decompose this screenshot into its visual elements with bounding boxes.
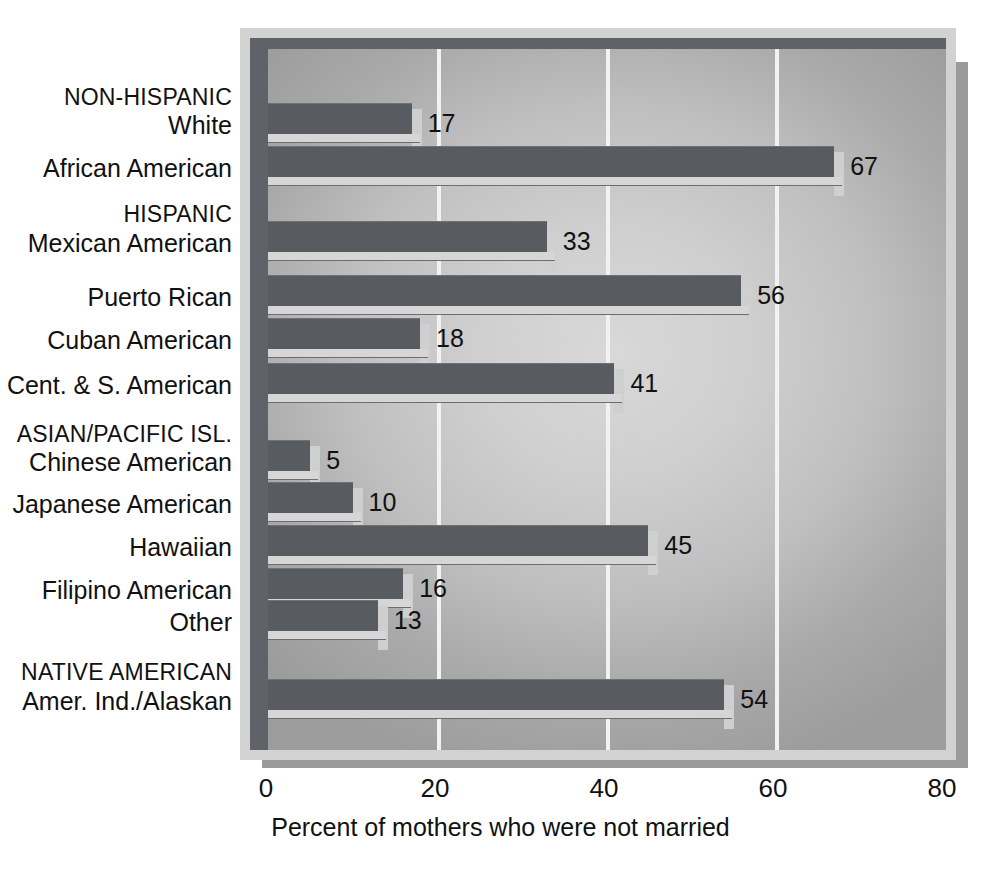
category-label: Amer. Ind./Alaskan — [22, 689, 232, 714]
bar-row — [268, 482, 365, 522]
bar-row — [268, 679, 736, 719]
bar-3d-underline — [268, 631, 386, 640]
bar-value-label: 18 — [436, 326, 464, 351]
bar-3d-underline — [268, 710, 732, 719]
bar-3d-underline — [268, 177, 842, 186]
bar-row — [268, 221, 559, 261]
bar-value-label: 54 — [740, 687, 768, 712]
bar — [268, 679, 724, 710]
category-group-heading: NATIVE AMERICAN — [21, 661, 232, 684]
category-group-heading: HISPANIC — [123, 203, 232, 226]
bar — [268, 363, 614, 394]
plot-area: 17673356184151045161354 — [250, 38, 946, 750]
x-tick-0: 0 — [259, 775, 273, 801]
bar-3d-underline — [268, 134, 420, 143]
category-label: African American — [43, 156, 232, 181]
bar-value-label: 17 — [428, 111, 456, 136]
bar-row — [268, 440, 322, 480]
bar-3d-side — [547, 227, 557, 271]
bar-3d-side — [834, 152, 844, 196]
bar-value-label: 13 — [394, 608, 422, 633]
bar-3d-underline — [268, 556, 656, 565]
bar — [268, 482, 353, 513]
bar-3d-side — [724, 685, 734, 729]
bar-value-label: 5 — [326, 448, 340, 473]
bar-row — [268, 146, 846, 186]
category-label: Filipino American — [42, 578, 232, 603]
bar — [268, 146, 834, 177]
bar-3d-side — [741, 281, 751, 325]
category-label: Other — [169, 610, 232, 635]
bar-3d-underline — [268, 349, 428, 358]
bar-row — [268, 318, 432, 358]
bar-value-label: 16 — [419, 576, 447, 601]
category-labels: NON-HISPANICWhiteAfrican AmericanHISPANI… — [0, 0, 232, 870]
bar-3d-side — [614, 369, 624, 413]
bars-layer: 17673356184151045161354 — [250, 38, 946, 750]
x-tick-20: 20 — [421, 775, 450, 801]
bar-3d-underline — [268, 252, 555, 261]
bar — [268, 103, 412, 134]
bar — [268, 275, 741, 306]
bar — [268, 525, 648, 556]
bar-value-label: 56 — [757, 283, 785, 308]
bar-value-label: 45 — [664, 533, 692, 558]
bar — [268, 221, 547, 252]
bar-value-label: 67 — [850, 154, 878, 179]
bar-3d-underline — [268, 306, 749, 315]
category-label: Mexican American — [28, 231, 232, 256]
bar-3d-side — [648, 531, 658, 575]
bar-value-label: 10 — [369, 490, 397, 515]
category-label: Chinese American — [29, 450, 232, 475]
category-label: Cent. & S. American — [7, 373, 232, 398]
bar-3d-side — [378, 606, 388, 650]
x-axis-label: Percent of mothers who were not married — [0, 815, 1001, 840]
category-label: White — [168, 113, 232, 138]
bar — [268, 440, 310, 471]
bar-row — [268, 103, 424, 143]
category-label: Hawaiian — [129, 535, 232, 560]
bar — [268, 318, 420, 349]
chart-figure: 17673356184151045161354 NON-HISPANICWhit… — [0, 0, 1001, 870]
x-tick-40: 40 — [590, 775, 619, 801]
bar-value-label: 41 — [630, 371, 658, 396]
category-label: Japanese American — [12, 492, 232, 517]
category-label: Puerto Rican — [87, 285, 232, 310]
bar-row — [268, 363, 626, 403]
bar-row — [268, 600, 390, 640]
bar-row — [268, 275, 753, 315]
category-group-heading: ASIAN/PACIFIC ISL. — [17, 423, 232, 446]
bar-3d-underline — [268, 471, 318, 480]
bar-3d-underline — [268, 394, 622, 403]
bar-value-label: 33 — [563, 229, 591, 254]
bar-row — [268, 525, 660, 565]
x-tick-80: 80 — [928, 775, 957, 801]
category-label: Cuban American — [47, 328, 232, 353]
category-group-heading: NON-HISPANIC — [64, 86, 232, 109]
bar-3d-side — [420, 324, 430, 368]
bar — [268, 600, 378, 631]
bar — [268, 568, 403, 599]
x-tick-60: 60 — [759, 775, 788, 801]
bar-3d-underline — [268, 513, 361, 522]
